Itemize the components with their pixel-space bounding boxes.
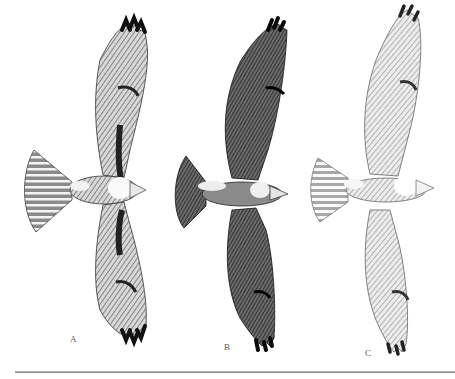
hawk-illustration <box>0 0 455 379</box>
panel-label-a: A <box>70 334 77 344</box>
hawk-c <box>311 6 434 354</box>
panel-label-c: C <box>365 348 371 358</box>
panel-label-b: B <box>224 342 230 352</box>
hawk-a <box>25 18 148 342</box>
hawk-b <box>175 18 288 350</box>
bottom-rule <box>15 371 455 373</box>
